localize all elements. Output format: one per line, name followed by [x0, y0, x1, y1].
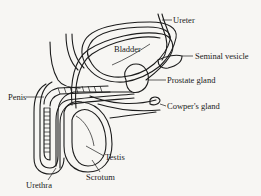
label-seminal-vesicle: Seminal vesicle: [195, 51, 249, 61]
reproductive-system-diagram: Ureter Bladder Seminal vesicle Prostate …: [0, 0, 261, 196]
label-prostate-gland: Prostate gland: [167, 75, 216, 85]
testis-shape: [72, 109, 106, 166]
label-cowpers-gland: Cowper's gland: [167, 101, 221, 111]
prostate-gland-shape: [125, 64, 149, 93]
label-testis: Testis: [105, 152, 125, 162]
leader-testis: [86, 146, 104, 156]
label-bladder: Bladder: [114, 44, 141, 54]
label-ureter: Ureter: [173, 15, 195, 25]
label-penis: Penis: [8, 92, 26, 102]
label-urethra: Urethra: [26, 180, 52, 190]
leader-cowpers-gland: [160, 104, 166, 106]
label-scrotum: Scrotum: [86, 172, 115, 182]
